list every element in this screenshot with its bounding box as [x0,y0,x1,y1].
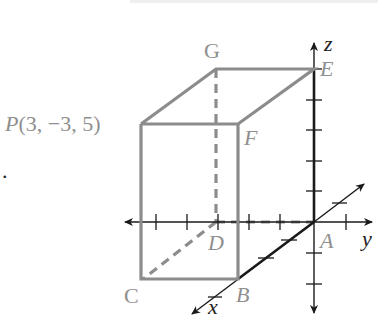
point-A-label: A [320,230,333,252]
z-axis-label: z [324,33,333,55]
visible-edges [141,69,314,279]
point-G-label: G [204,40,220,62]
point-D-label: D [208,232,224,254]
point-E-label: E [320,58,333,80]
tick-marks [156,69,347,297]
top-face [141,69,314,124]
front-face [141,124,238,279]
hidden-edges [143,69,314,279]
point-C-label: C [124,285,139,307]
bullet-dot: . [2,160,8,182]
point-F-label: F [244,127,257,149]
point-P-label: P(3, −3, 5) [5,113,101,135]
x-axis-label: x [208,296,218,318]
y-axis-label: y [362,228,372,250]
point-B-label: B [236,284,249,306]
axes [125,43,372,314]
rectangular-box-diagram [0,0,378,321]
edge-D-C [143,222,216,279]
diagram-canvas: P(3, −3, 5) G E F D A B C z y x . [0,0,378,321]
